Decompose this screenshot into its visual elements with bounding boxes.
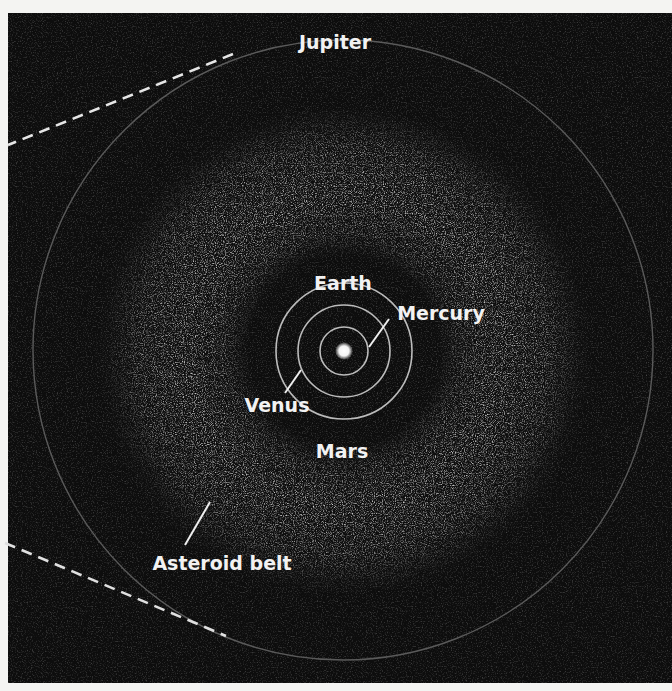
mercury-label: Mercury	[397, 302, 485, 324]
jupiter-label: Jupiter	[297, 31, 372, 53]
sun-icon	[335, 342, 353, 360]
solar-system-diagram: Jupiter Earth Mercury Venus Mars Asteroi…	[0, 0, 672, 691]
asteroid-belt-label: Asteroid belt	[152, 552, 291, 574]
venus-label: Venus	[245, 394, 310, 416]
mars-label: Mars	[316, 440, 368, 462]
earth-label: Earth	[314, 272, 372, 294]
